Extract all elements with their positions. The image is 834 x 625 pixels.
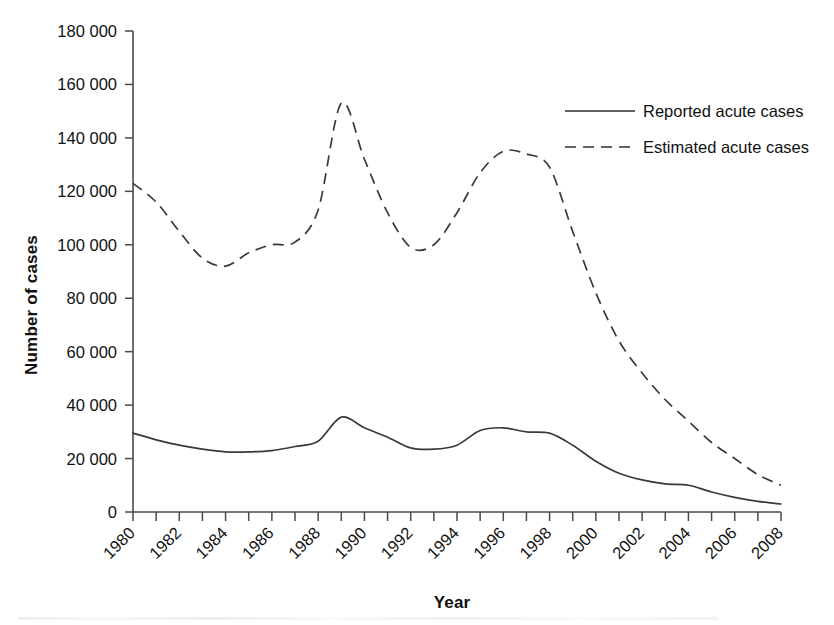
y-tick-label: 180 000	[57, 22, 117, 40]
legend-label-1: Estimated acute cases	[643, 138, 809, 156]
y-tick-label: 20 000	[67, 450, 117, 468]
y-tick-label: 60 000	[67, 343, 117, 361]
y-tick-label: 40 000	[67, 396, 117, 414]
x-tick-label: 1980	[99, 523, 138, 562]
chart-legend: Reported acute cases Estimated acute cas…	[565, 102, 809, 156]
y-tick-label: 100 000	[57, 236, 117, 254]
series-line-estimated-acute-cases	[133, 102, 781, 485]
legend-label-0: Reported acute cases	[643, 102, 804, 120]
x-tick-label: 1990	[331, 523, 370, 562]
x-tick-label: 2006	[701, 523, 740, 562]
x-axis-tick-labels: 1980198219841986198819901992199419961998…	[99, 523, 786, 562]
chart-figure: Number of cases Year 020 00040 00060 000…	[0, 0, 834, 625]
y-tick-label: 120 000	[57, 182, 117, 200]
x-axis-ticks	[133, 512, 781, 521]
x-tick-label: 2008	[747, 523, 786, 562]
scan-artifact-line	[18, 617, 718, 620]
x-tick-label: 1984	[192, 523, 231, 562]
x-tick-label: 1996	[470, 523, 509, 562]
x-tick-label: 2000	[562, 523, 601, 562]
x-tick-label: 1998	[516, 523, 555, 562]
x-tick-label: 1988	[285, 523, 324, 562]
series-line-reported-acute-cases	[133, 417, 781, 504]
x-tick-label: 1982	[146, 523, 185, 562]
y-tick-label: 0	[108, 503, 117, 521]
x-tick-label: 2004	[655, 523, 694, 562]
y-tick-label: 80 000	[67, 289, 117, 307]
x-tick-label: 1986	[238, 523, 277, 562]
y-axis-tick-labels: 020 00040 00060 00080 000100 000120 0001…	[57, 22, 117, 521]
y-tick-label: 140 000	[57, 129, 117, 147]
line-chart-svg: Number of cases Year 020 00040 00060 000…	[0, 0, 834, 625]
x-tick-label: 1992	[377, 523, 416, 562]
x-axis-title: Year	[434, 593, 471, 612]
y-tick-label: 160 000	[57, 75, 117, 93]
y-axis-title: Number of cases	[22, 235, 41, 375]
x-tick-label: 2002	[609, 523, 648, 562]
x-tick-label: 1994	[423, 523, 462, 562]
y-axis-ticks	[125, 31, 133, 512]
